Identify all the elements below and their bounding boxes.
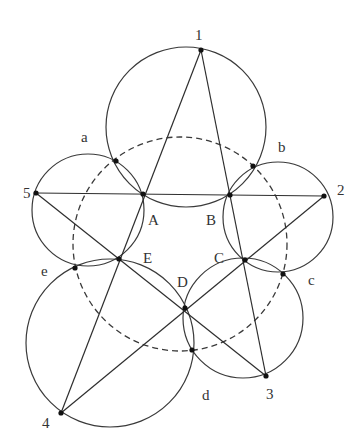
label-D: D [177,274,188,290]
point-A [140,191,145,196]
point-4 [58,410,63,415]
point-B [227,192,232,197]
circle-3CD [183,258,303,378]
label-c: c [308,272,315,288]
circles-layer [26,47,333,427]
label-2: 2 [337,182,345,198]
label-3: 3 [266,386,274,402]
segment-5-2 [36,193,324,196]
segment-4-2 [61,196,324,413]
label-e: e [41,263,48,279]
point-d [189,347,194,352]
label-E: E [143,250,152,266]
circle-1AB [106,47,266,207]
point-2 [321,193,326,198]
point-a [113,158,118,163]
circle-4ED [26,259,194,427]
point-1 [198,47,203,52]
labels-layer: 12345ABCDEabcde [23,27,345,431]
point-e [72,265,77,270]
label-C: C [214,250,224,266]
point-3 [263,373,268,378]
geometry-diagram: 12345ABCDEabcde [0,0,363,446]
label-1: 1 [195,27,203,43]
circle-2BC [223,162,333,272]
points-layer [33,47,326,415]
label-a: a [81,129,88,145]
point-5 [33,190,38,195]
point-c [280,271,285,276]
label-d: d [202,387,210,403]
point-b [250,163,255,168]
star-segments-layer [36,50,324,413]
label-A: A [148,212,159,228]
label-4: 4 [42,415,50,431]
point-C [242,257,247,262]
label-b: b [278,139,286,155]
point-E [116,256,121,261]
circle-5AE [32,154,144,266]
segment-1-4 [61,50,201,413]
point-D [182,305,187,310]
label-B: B [206,212,216,228]
label-5: 5 [23,185,31,201]
